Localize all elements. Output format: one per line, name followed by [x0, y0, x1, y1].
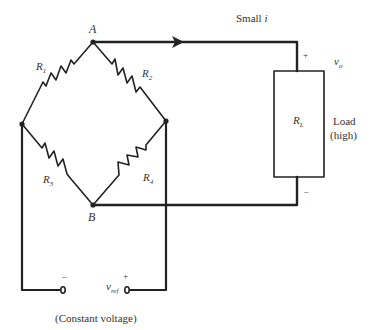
- node-b-label: B: [88, 210, 96, 224]
- node-b-dot: [90, 202, 95, 207]
- node-left-dot: [19, 121, 24, 126]
- vo-label: vo: [334, 55, 343, 70]
- resistor-r1: [22, 42, 93, 124]
- resistor-r4: [93, 121, 166, 205]
- source-caption: (Constant voltage): [55, 312, 137, 325]
- terminal-minus: [61, 287, 65, 293]
- node-right-dot: [163, 118, 168, 123]
- wheatstone-bridge-diagram: A B Small i R1 R2 R3 R4 RL Load (high) +…: [0, 0, 376, 330]
- vref-label: vref: [106, 280, 119, 295]
- resistor-r2: [93, 42, 166, 121]
- r1-label: R1: [35, 60, 46, 75]
- vref-plus-label: +: [123, 271, 128, 281]
- rl-label: RL: [292, 114, 304, 129]
- output-wire-top: [93, 42, 297, 71]
- vo-minus-label: –: [303, 186, 309, 196]
- terminal-plus: [125, 287, 129, 293]
- output-wire-bottom: [93, 177, 297, 205]
- vo-plus-label: +: [303, 50, 308, 60]
- node-a-label: A: [88, 22, 97, 36]
- source-wire-left: [22, 124, 60, 290]
- load-label-line2: (high): [330, 129, 357, 142]
- resistor-r3: [22, 124, 93, 205]
- current-label: Small i: [236, 12, 267, 24]
- vref-minus-label: –: [61, 271, 67, 281]
- node-a-dot: [90, 39, 95, 44]
- load-label-line1: Load: [333, 115, 356, 127]
- r4-label: R4: [142, 171, 154, 186]
- r3-label: R3: [42, 173, 54, 188]
- r2-label: R2: [141, 67, 153, 82]
